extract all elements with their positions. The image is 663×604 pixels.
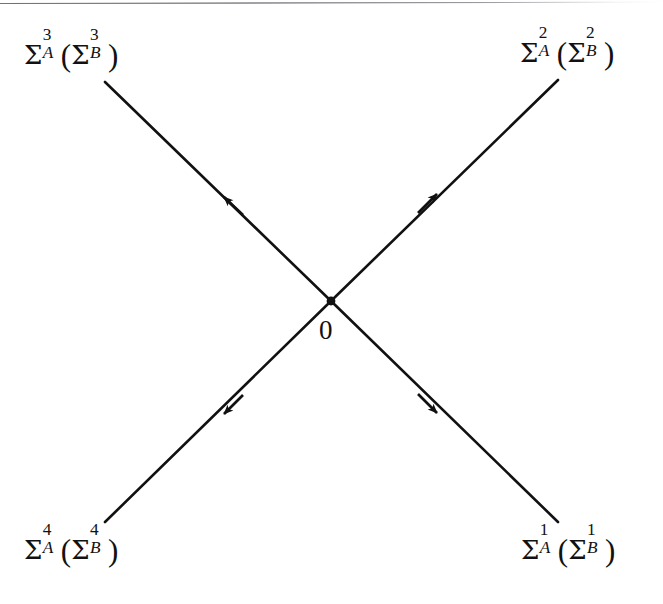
superscript-outer-4: 4: [43, 521, 52, 538]
subscript-outer-3: A: [43, 44, 54, 61]
superscript-inner-2: 2: [586, 24, 595, 41]
superscript-outer-2: 2: [539, 24, 548, 41]
open-paren-1: (: [558, 533, 568, 568]
close-paren-1: ): [605, 533, 615, 568]
origin-dot: [327, 297, 336, 306]
ray-line-sigma4: [105, 301, 331, 522]
diagram-canvas: Σ3A(Σ3B) Σ2A(Σ2B) Σ4A(Σ4B) Σ1A(Σ1B) 0: [0, 0, 663, 604]
script-outer-1: 1A: [539, 533, 557, 559]
close-paren-4: ): [108, 533, 118, 568]
script-inner-1: 1B: [587, 533, 605, 559]
close-paren-2: ): [604, 36, 614, 71]
script-inner-4: 4B: [90, 533, 108, 559]
subscript-outer-4: A: [43, 539, 54, 556]
ray-line-sigma3: [105, 82, 331, 301]
open-paren-3: (: [61, 38, 71, 73]
sigma-glyph-inner-2: Σ: [567, 38, 585, 68]
origin-label: 0: [319, 317, 333, 344]
subscript-inner-2: B: [586, 42, 597, 59]
sigma-glyph-inner-3: Σ: [71, 40, 89, 70]
ray-arrow-sigma1: [418, 394, 437, 413]
sigma-glyph-outer-2: Σ: [520, 38, 538, 68]
label-sigma-1: Σ1A(Σ1B): [521, 533, 616, 564]
subscript-inner-3: B: [90, 44, 101, 61]
ray-diagram-svg: [0, 0, 663, 604]
open-paren-4: (: [61, 533, 71, 568]
subscript-outer-1: A: [540, 539, 551, 556]
ray-arrow-sigma2: [418, 194, 437, 213]
label-sigma-3: Σ3A(Σ3B): [24, 38, 119, 69]
sigma-glyph-outer-4: Σ: [24, 535, 42, 565]
superscript-inner-1: 1: [587, 521, 596, 538]
subscript-inner-1: B: [587, 539, 598, 556]
superscript-inner-3: 3: [90, 26, 99, 43]
sigma-glyph-outer-1: Σ: [521, 535, 539, 565]
ray-line-sigma2: [331, 80, 558, 301]
superscript-outer-1: 1: [540, 521, 549, 538]
close-paren-3: ): [108, 38, 118, 73]
script-outer-4: 4A: [42, 533, 60, 559]
script-outer-2: 2A: [538, 36, 556, 62]
ray-arrow-sigma3: [224, 197, 243, 215]
superscript-inner-4: 4: [90, 521, 99, 538]
superscript-outer-3: 3: [43, 26, 52, 43]
script-outer-3: 3A: [42, 38, 60, 64]
label-sigma-2: Σ2A(Σ2B): [520, 36, 615, 67]
subscript-inner-4: B: [90, 539, 101, 556]
sigma-glyph-inner-1: Σ: [568, 535, 586, 565]
script-inner-3: 3B: [90, 38, 108, 64]
sigma-glyph-inner-4: Σ: [71, 535, 89, 565]
script-inner-2: 2B: [586, 36, 604, 62]
open-paren-2: (: [557, 36, 567, 71]
sigma-glyph-outer-3: Σ: [24, 40, 42, 70]
subscript-outer-2: A: [539, 42, 550, 59]
ray-line-sigma1: [331, 301, 558, 522]
label-sigma-4: Σ4A(Σ4B): [24, 533, 119, 564]
